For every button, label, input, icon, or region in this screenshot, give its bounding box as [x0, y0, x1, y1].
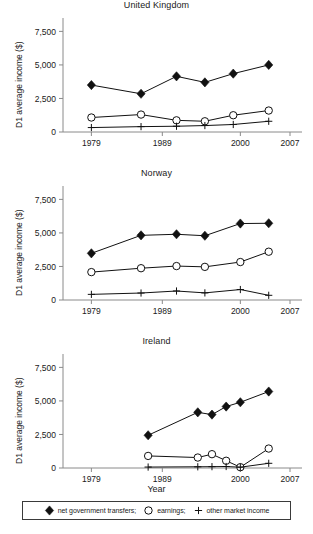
marker-diamond [222, 402, 230, 411]
marker-circle [144, 452, 151, 459]
marker-diamond [194, 408, 202, 417]
x-tick-label: 1989 [153, 138, 172, 148]
marker-plus [88, 291, 95, 298]
marker-circle [88, 268, 95, 275]
legend-plus-icon [193, 505, 204, 516]
plot-area: 02,5005,0007,5001979198920002007 [0, 168, 313, 328]
x-tick-label: 2000 [231, 138, 250, 148]
x-tick-label: 2007 [281, 138, 300, 148]
y-tick-label: 5,000 [35, 396, 57, 406]
legend-label: earnings; [157, 507, 185, 514]
legend-diamond-icon [44, 505, 55, 516]
y-tick-label: 0 [51, 463, 56, 473]
marker-plus [265, 118, 272, 125]
x-tick-label: 2000 [231, 474, 250, 484]
y-tick-label: 2,500 [35, 262, 57, 272]
marker-diamond [265, 387, 273, 396]
marker-diamond [87, 249, 95, 258]
plot-area: 02,5005,0007,5001979198920002007 [0, 336, 313, 496]
marker-diamond [172, 72, 180, 81]
marker-diamond [201, 231, 209, 240]
panel-united-kingdom: United Kingdom D1 average income ($) 02,… [0, 0, 313, 160]
marker-plus [265, 460, 272, 467]
marker-plus [194, 507, 201, 514]
marker-diamond [208, 410, 216, 419]
marker-diamond [45, 506, 53, 515]
y-tick-label: 7,500 [35, 27, 57, 37]
x-tick-label: 1979 [82, 474, 101, 484]
marker-plus [208, 463, 215, 470]
x-tick-label: 1979 [82, 306, 101, 316]
marker-plus [230, 121, 237, 128]
marker-plus [137, 123, 144, 130]
marker-diamond [229, 69, 237, 78]
x-tick-label: 2007 [281, 474, 300, 484]
marker-diamond [144, 431, 152, 440]
marker-diamond [236, 219, 244, 228]
legend-label: other market income [207, 507, 270, 514]
marker-diamond [265, 60, 273, 69]
y-tick-label: 7,500 [35, 363, 57, 373]
series-line-plus [91, 290, 268, 296]
marker-circle [137, 111, 144, 118]
series-line-diamond [148, 392, 269, 436]
marker-plus [88, 124, 95, 131]
marker-diamond [137, 231, 145, 240]
y-tick-label: 2,500 [35, 94, 57, 104]
x-tick-label: 2007 [281, 306, 300, 316]
marker-diamond [87, 80, 95, 89]
marker-circle [265, 248, 272, 255]
marker-circle [265, 445, 272, 452]
y-tick-label: 0 [51, 295, 56, 305]
marker-circle [137, 265, 144, 272]
y-tick-label: 5,000 [35, 228, 57, 238]
series-line-diamond [91, 223, 268, 253]
y-tick-label: 7,500 [35, 195, 57, 205]
marker-diamond [137, 89, 145, 98]
marker-circle [201, 263, 208, 270]
marker-circle [237, 258, 244, 265]
marker-circle [265, 107, 272, 114]
marker-circle [88, 114, 95, 121]
legend-label: net government transfers; [58, 507, 137, 514]
x-tick-label: 2000 [231, 306, 250, 316]
marker-circle [145, 507, 152, 514]
marker-plus [145, 463, 152, 470]
marker-diamond [201, 78, 209, 87]
marker-plus [173, 287, 180, 294]
legend-circle-icon [143, 505, 154, 516]
marker-circle [208, 450, 215, 457]
marker-circle [230, 112, 237, 119]
marker-plus [265, 292, 272, 299]
y-tick-label: 5,000 [35, 60, 57, 70]
marker-circle [173, 262, 180, 269]
series-line-circle [148, 449, 269, 468]
marker-plus [173, 123, 180, 130]
legend-entry: net government transfers; [44, 505, 137, 516]
marker-plus [237, 286, 244, 293]
x-tick-label: 1979 [82, 138, 101, 148]
marker-diamond [172, 230, 180, 239]
marker-diamond [265, 219, 273, 228]
panel-ireland: Ireland D1 average income ($) 02,5005,00… [0, 336, 313, 496]
series-line-diamond [91, 65, 268, 94]
x-tick-label: 1989 [153, 474, 172, 484]
plot-area: 02,5005,0007,5001979198920002007 [0, 0, 313, 160]
figure-root: United Kingdom D1 average income ($) 02,… [0, 0, 313, 534]
legend-entry: earnings; [143, 505, 185, 516]
x-tick-label: 1989 [153, 306, 172, 316]
legend: net government transfers;earnings;other … [22, 501, 291, 520]
legend-entry: other market income [193, 505, 270, 516]
marker-plus [137, 289, 144, 296]
marker-circle [194, 454, 201, 461]
marker-diamond [236, 398, 244, 407]
marker-plus [194, 463, 201, 470]
x-axis-label: Year [0, 484, 313, 494]
panel-norway: Norway D1 average income ($) 02,5005,000… [0, 168, 313, 328]
y-tick-label: 2,500 [35, 430, 57, 440]
marker-plus [201, 289, 208, 296]
y-tick-label: 0 [51, 127, 56, 137]
